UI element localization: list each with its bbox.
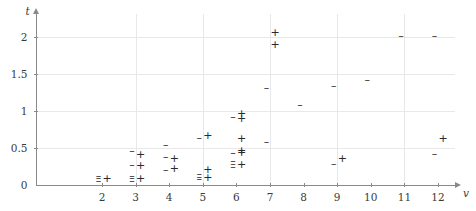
data-point-plus: + — [439, 133, 447, 144]
x-axis-tick — [270, 183, 271, 187]
x-axis-arrow — [455, 182, 461, 188]
x-axis-label: v — [463, 187, 469, 199]
gridline-horizontal — [36, 74, 456, 75]
data-point-plus: + — [170, 163, 178, 174]
x-axis-tick — [169, 183, 170, 187]
y-axis-tick-label: 0 — [0, 179, 28, 191]
data-point-dash: – — [363, 74, 371, 85]
y-axis — [36, 14, 37, 185]
data-point-dash: – — [330, 158, 338, 169]
x-axis-tick-label: 2 — [90, 191, 114, 203]
data-point-plus: + — [271, 27, 279, 38]
x-axis-tick-label: 11 — [392, 191, 416, 203]
data-point-plus: + — [237, 147, 245, 158]
y-axis-arrow — [33, 8, 39, 14]
y-axis-tick — [34, 74, 38, 75]
data-point-dash: – — [431, 148, 439, 159]
data-point-plus: + — [203, 172, 211, 183]
data-point-plus: + — [338, 153, 346, 164]
data-point-plus: + — [136, 160, 144, 171]
data-point-dash: – — [296, 99, 304, 110]
gridline-horizontal — [36, 37, 456, 38]
y-axis-tick-label: 2 — [0, 31, 28, 43]
data-point-dash: – — [162, 164, 170, 175]
x-axis-tick — [304, 183, 305, 187]
data-point-dash: – — [263, 136, 271, 147]
x-axis-tick-label: 7 — [258, 191, 282, 203]
data-point-dash: – — [195, 173, 203, 184]
y-axis-label: t — [26, 5, 30, 17]
x-axis-tick — [337, 183, 338, 187]
x-axis-tick-label: 4 — [157, 191, 181, 203]
data-point-plus: + — [237, 159, 245, 170]
y-axis-tick-label: 1.5 — [0, 68, 28, 80]
x-axis-tick — [371, 183, 372, 187]
x-axis-tick — [438, 183, 439, 187]
x-axis-tick-label: 9 — [325, 191, 349, 203]
data-point-plus: + — [237, 133, 245, 144]
data-point-dash: – — [95, 175, 103, 186]
x-axis-tick-label: 12 — [426, 191, 450, 203]
x-axis-tick-label: 10 — [359, 191, 383, 203]
data-point-dash: – — [195, 132, 203, 143]
data-point-dash: – — [330, 80, 338, 91]
x-axis-tick — [404, 183, 405, 187]
data-point-plus: + — [203, 130, 211, 141]
data-point-dash: – — [128, 175, 136, 186]
x-axis-tick — [236, 183, 237, 187]
data-point-plus: + — [136, 173, 144, 184]
y-axis-tick-label: 0.5 — [0, 142, 28, 154]
data-point-dash: – — [162, 151, 170, 162]
data-point-plus: + — [271, 39, 279, 50]
x-axis-tick-label: 8 — [292, 191, 316, 203]
y-axis-tick — [34, 148, 38, 149]
data-point-dash: – — [431, 30, 439, 41]
data-point-dash: – — [263, 82, 271, 93]
y-axis-tick — [34, 111, 38, 112]
gridline-vertical — [203, 14, 204, 185]
data-point-plus: + — [103, 173, 111, 184]
data-point-plus: + — [237, 113, 245, 124]
data-point-dash: – — [128, 145, 136, 156]
y-axis-tick — [34, 37, 38, 38]
data-point-dash: – — [229, 111, 237, 122]
data-point-dash: – — [162, 139, 170, 150]
x-axis-tick-label: 3 — [124, 191, 148, 203]
y-axis-tick-label: 1 — [0, 105, 28, 117]
x-axis-tick-label: 6 — [224, 191, 248, 203]
data-point-dash: – — [397, 30, 405, 41]
data-point-dash: – — [229, 161, 237, 172]
scatter-plot-canvas: 2345678910111200.511.52vt–––––––––––––––… — [0, 0, 476, 211]
x-axis-tick-label: 5 — [191, 191, 215, 203]
